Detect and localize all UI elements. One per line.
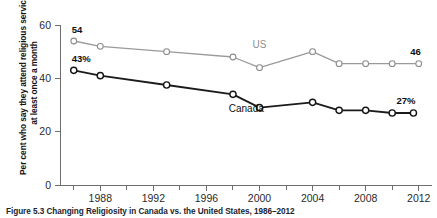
y-ticks-group: 0204060 xyxy=(39,19,60,191)
data-point-marker-us xyxy=(389,61,395,67)
x-ticks-group: 1988199219962000200420082012 xyxy=(74,186,431,205)
data-point-marker-us xyxy=(71,38,77,44)
y-tick-label: 60 xyxy=(39,19,51,31)
data-point-marker-us xyxy=(230,54,236,60)
x-tick-label: 1996 xyxy=(195,192,219,204)
endpoint-label-start-canada: 43% xyxy=(72,53,92,64)
data-point-marker-us xyxy=(363,61,369,67)
series-inline-label-canada: Canada xyxy=(229,103,264,114)
x-tick-label: 2008 xyxy=(354,192,378,204)
data-point-marker-canada xyxy=(336,107,342,113)
y-tick-label: 20 xyxy=(39,125,51,137)
x-tick-label: 2012 xyxy=(407,192,431,204)
figure-root: Per cent who say they attend religious s… xyxy=(0,0,437,218)
figure-caption: Figure 5.3 Changing Religiosity in Canad… xyxy=(6,207,431,218)
y-tick-label: 0 xyxy=(45,179,51,191)
data-point-marker-canada xyxy=(363,107,369,113)
x-tick-label: 2000 xyxy=(248,192,272,204)
data-point-marker-us xyxy=(416,61,422,67)
data-point-marker-us xyxy=(310,49,316,55)
data-point-marker-canada xyxy=(97,73,103,79)
y-tick-label: 40 xyxy=(39,72,51,84)
endpoint-label-start-us: 54 xyxy=(72,24,83,35)
endpoint-label-end-us: 46 xyxy=(410,46,421,57)
data-point-marker-us xyxy=(164,49,170,55)
data-point-marker-canada xyxy=(389,110,395,116)
data-point-marker-us xyxy=(336,61,342,67)
x-tick-label: 1988 xyxy=(89,192,113,204)
data-point-marker-canada xyxy=(71,67,77,73)
data-point-marker-us xyxy=(97,43,103,49)
data-point-marker-canada xyxy=(230,91,236,97)
data-point-marker-canada xyxy=(164,82,170,88)
series-inline-label-us: US xyxy=(253,39,267,50)
data-point-marker-canada xyxy=(309,99,315,105)
line-chart-plot: 0204060 1988199219962000200420082012 US5… xyxy=(0,0,437,205)
data-point-marker-us xyxy=(257,65,263,71)
data-point-marker-canada xyxy=(410,110,416,116)
x-tick-label: 2004 xyxy=(301,192,325,204)
endpoint-label-end-canada: 27% xyxy=(396,95,416,106)
x-tick-label: 1992 xyxy=(142,192,166,204)
